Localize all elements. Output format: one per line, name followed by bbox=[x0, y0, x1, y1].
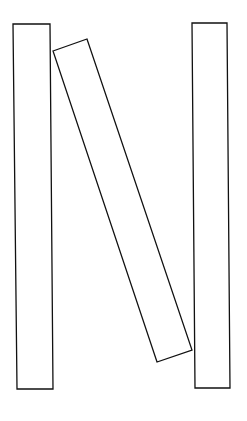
leaning-board bbox=[53, 39, 192, 362]
right-board bbox=[192, 23, 230, 388]
diagram-canvas bbox=[0, 0, 247, 421]
left-board bbox=[13, 24, 53, 389]
